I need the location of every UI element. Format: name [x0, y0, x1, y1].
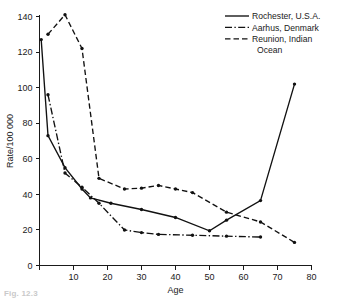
x-tick-label: 30: [136, 272, 146, 282]
data-point-marker: [80, 186, 83, 189]
data-point-marker: [208, 229, 211, 232]
figure-container: 020406080100120140 1020304050607080 Roch…: [0, 0, 346, 299]
data-point-marker: [97, 202, 100, 205]
y-tick-label: 40: [22, 190, 32, 200]
x-tick-label: 80: [306, 272, 316, 282]
y-tick-label: 0: [27, 261, 32, 271]
series-line: [41, 40, 294, 231]
data-point-marker: [225, 234, 228, 237]
figure-caption: Fig. 12.3: [4, 289, 38, 298]
data-point-marker: [157, 233, 160, 236]
y-tick-label: 20: [22, 225, 32, 235]
data-point-marker: [63, 171, 66, 174]
line-chart: 020406080100120140 1020304050607080 Roch…: [0, 0, 346, 299]
data-series: [40, 38, 297, 233]
series-line: [48, 95, 261, 237]
legend-label: Reunion, Indian: [252, 34, 312, 44]
data-point-marker: [259, 199, 262, 202]
x-tick-label: 50: [204, 272, 214, 282]
data-point-marker: [140, 186, 143, 189]
data-point-marker: [191, 234, 194, 237]
data-point-marker: [140, 231, 143, 234]
data-point-marker: [80, 47, 83, 50]
data-point-marker: [225, 218, 228, 221]
data-point-marker: [123, 228, 126, 231]
data-point-marker: [140, 208, 143, 211]
x-tick-label: 20: [102, 272, 112, 282]
data-point-marker: [293, 82, 296, 85]
y-tick-label: 120: [17, 47, 32, 57]
y-tick-label: 140: [17, 12, 32, 22]
data-point-marker: [40, 38, 43, 41]
data-point-marker: [46, 134, 49, 137]
data-point-marker: [259, 220, 262, 223]
data-point-marker: [109, 202, 112, 205]
data-point-marker: [157, 184, 160, 187]
x-tick-label: 10: [68, 272, 78, 282]
chart-legend: Rochester, U.S.A.Aarhus, DenmarkReunion,…: [225, 11, 320, 55]
x-axis-title: Age: [167, 285, 183, 295]
data-point-marker: [97, 177, 100, 180]
y-tick-label: 60: [22, 154, 32, 164]
data-point-marker: [191, 191, 194, 194]
y-tick-label: 80: [22, 118, 32, 128]
x-tick-label: 60: [238, 272, 248, 282]
data-point-marker: [63, 13, 66, 16]
x-axis: 1020304050607080: [40, 266, 317, 282]
y-axis-title: Rate/100 000: [5, 114, 15, 168]
x-tick-label: 70: [272, 272, 282, 282]
x-tick-label: 40: [170, 272, 180, 282]
data-point-marker: [46, 33, 49, 36]
legend-label: Rochester, U.S.A.: [252, 11, 320, 21]
legend-label: Aarhus, Denmark: [252, 23, 320, 33]
data-series: [46, 93, 262, 239]
data-point-marker: [46, 93, 49, 96]
data-point-marker: [225, 210, 228, 213]
data-point-marker: [259, 235, 262, 238]
y-tick-label: 100: [17, 83, 32, 93]
data-point-marker: [174, 216, 177, 219]
legend-label: Ocean: [257, 45, 283, 55]
data-point-marker: [293, 241, 296, 244]
data-point-marker: [123, 187, 126, 190]
data-point-marker: [174, 187, 177, 190]
y-axis: 020406080100120140: [17, 12, 39, 271]
